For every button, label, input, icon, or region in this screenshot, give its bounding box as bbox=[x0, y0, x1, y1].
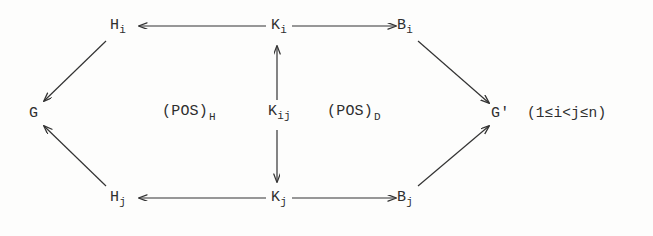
node-b-j-subscript: j bbox=[406, 196, 413, 208]
index-range-condition: (1≤i<j≤n) bbox=[527, 106, 606, 121]
node-h-j-base: H bbox=[110, 189, 119, 206]
node-k-i: Ki bbox=[271, 18, 287, 36]
node-h-i-subscript: i bbox=[119, 24, 126, 36]
label-pos-h-subscript: H bbox=[208, 111, 216, 123]
label-pos-h-base: (POS) bbox=[162, 103, 208, 120]
node-b-i: Bi bbox=[397, 18, 413, 36]
node-g-base: G bbox=[29, 105, 38, 122]
label-pos-d-base: (POS) bbox=[327, 103, 373, 120]
arrow-bj-to-gp bbox=[418, 126, 489, 186]
node-b-j-base: B bbox=[397, 189, 406, 206]
node-k-j-base: K bbox=[271, 189, 280, 206]
arrow-hi-to-g bbox=[44, 41, 106, 101]
node-k-ij-base: K bbox=[268, 103, 277, 120]
node-k-ij-subscript: ij bbox=[277, 110, 291, 122]
node-k-j-subscript: j bbox=[280, 196, 287, 208]
node-h-i-base: H bbox=[110, 17, 119, 34]
arrow-bi-to-gp bbox=[418, 41, 489, 103]
node-g: G bbox=[29, 106, 38, 121]
label-pos-d: (POS)D bbox=[327, 104, 381, 123]
node-b-i-subscript: i bbox=[406, 24, 413, 36]
node-k-j: Kj bbox=[271, 190, 287, 208]
node-b-i-base: B bbox=[397, 17, 406, 34]
node-h-j-subscript: j bbox=[119, 196, 126, 208]
node-h-j: Hj bbox=[110, 190, 126, 208]
node-g-prime: G' bbox=[491, 106, 509, 121]
node-g-prime-base: G' bbox=[491, 105, 509, 122]
diagram-canvas: Hi Ki Bi G Kij G' Hj Kj Bj (POS)H (POS)D… bbox=[0, 0, 653, 236]
label-pos-h: (POS)H bbox=[162, 104, 216, 123]
node-h-i: Hi bbox=[110, 18, 126, 36]
node-k-i-base: K bbox=[271, 17, 280, 34]
node-k-i-subscript: i bbox=[280, 24, 287, 36]
arrow-hj-to-g bbox=[44, 126, 106, 186]
node-b-j: Bj bbox=[397, 190, 413, 208]
label-pos-d-subscript: D bbox=[373, 111, 381, 123]
node-k-ij: Kij bbox=[268, 104, 291, 122]
